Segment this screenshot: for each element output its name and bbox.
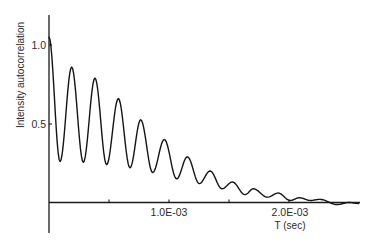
x-tick-label-1-0e3: 1.0E-03 [151,206,188,218]
y-axis-label: Intensity autocorrelation [15,22,26,128]
autocorrelation-chart: 1.0 0.5 1.0E-03 2.0E-03 T (sec) Intensit… [0,0,374,246]
x-axis-label: T (sec) [275,220,306,231]
autocorrelation-curve [49,37,359,204]
y-tick-label-0-5: 0.5 [31,118,46,130]
y-tick-label-1-0: 1.0 [31,39,46,51]
x-tick-label-2-0e3: 2.0E-03 [272,206,309,218]
